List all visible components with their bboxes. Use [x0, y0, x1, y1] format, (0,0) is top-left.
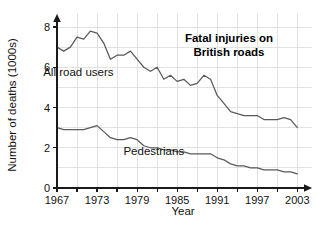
- y-axis-arrowhead: [53, 14, 61, 22]
- x-tick-label: 1967: [45, 194, 69, 206]
- y-tick-label: 8: [44, 21, 50, 33]
- x-tick-label: 1973: [85, 194, 109, 206]
- x-tick-label: 1997: [245, 194, 269, 206]
- series-label: Pedestrians: [123, 145, 184, 157]
- chart-figure: 02468 1967197319791985199119972003 Numbe…: [0, 0, 316, 231]
- series-labels: All road usersPedestrians: [43, 66, 184, 157]
- x-axis-title: Year: [171, 205, 194, 217]
- axes: [53, 14, 312, 192]
- y-axis-ticks: 02468: [44, 21, 57, 194]
- chart-title-line-1: Fatal injuries on: [185, 32, 273, 44]
- series-label: All road users: [43, 66, 114, 78]
- x-tick-label: 1991: [205, 194, 229, 206]
- y-tick-label: 0: [44, 182, 50, 194]
- x-tick-label: 1979: [125, 194, 149, 206]
- line-chart-canvas: 02468 1967197319791985199119972003 Numbe…: [0, 0, 316, 231]
- y-axis-title: Number of deaths (1000s): [6, 38, 18, 172]
- y-tick-label: 2: [44, 142, 50, 154]
- chart-title-line-2: British roads: [194, 46, 265, 58]
- x-axis-arrowhead: [304, 184, 312, 192]
- x-tick-label: 2003: [285, 194, 309, 206]
- x-axis-ticks: 1967197319791985199119972003: [45, 188, 310, 206]
- y-tick-label: 4: [44, 102, 50, 114]
